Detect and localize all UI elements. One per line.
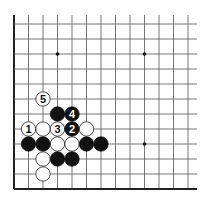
stone-white bbox=[50, 137, 64, 151]
black-stone-icon bbox=[21, 137, 35, 151]
star-point-icon bbox=[143, 142, 147, 146]
white-stone-icon bbox=[36, 167, 50, 181]
stone-black bbox=[65, 152, 79, 166]
move-number-label: 1 bbox=[25, 123, 31, 135]
move-number-label: 4 bbox=[69, 108, 76, 120]
black-stone-icon bbox=[36, 137, 50, 151]
stone-black bbox=[79, 137, 93, 151]
stone-black-move-2: 2 bbox=[65, 122, 79, 136]
move-number-label: 2 bbox=[69, 123, 75, 135]
stone-black bbox=[21, 137, 35, 151]
black-stone-icon bbox=[79, 137, 93, 151]
stone-white bbox=[79, 122, 93, 136]
stone-white bbox=[36, 122, 50, 136]
stones: 54132 bbox=[21, 92, 108, 181]
stone-white-move-3: 3 bbox=[50, 122, 64, 136]
move-number-label: 5 bbox=[40, 93, 46, 105]
stone-white bbox=[36, 152, 50, 166]
stone-white bbox=[65, 137, 79, 151]
stone-white-move-1: 1 bbox=[21, 122, 35, 136]
black-stone-icon bbox=[65, 152, 79, 166]
white-stone-icon bbox=[36, 152, 50, 166]
white-stone-icon bbox=[36, 122, 50, 136]
go-board: 54132 bbox=[0, 0, 208, 201]
star-point-icon bbox=[56, 52, 60, 56]
white-stone-icon bbox=[65, 137, 79, 151]
stone-white bbox=[36, 167, 50, 181]
star-point-icon bbox=[143, 52, 147, 56]
stone-black bbox=[36, 137, 50, 151]
white-stone-icon bbox=[79, 122, 93, 136]
stone-black bbox=[50, 107, 64, 121]
stone-black bbox=[50, 152, 64, 166]
white-stone-icon bbox=[50, 137, 64, 151]
stone-black-move-4: 4 bbox=[65, 107, 79, 121]
move-number-label: 3 bbox=[54, 123, 60, 135]
black-stone-icon bbox=[94, 137, 108, 151]
black-stone-icon bbox=[50, 107, 64, 121]
stone-white-move-5: 5 bbox=[36, 92, 50, 106]
black-stone-icon bbox=[50, 152, 64, 166]
stone-black bbox=[94, 137, 108, 151]
